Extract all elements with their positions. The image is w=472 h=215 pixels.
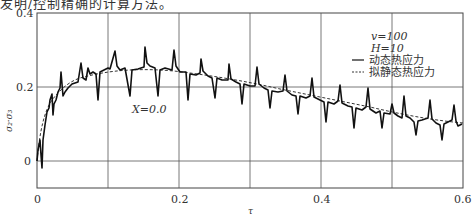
- y-tick-0: 0: [24, 155, 31, 168]
- x-tick-0.4: 0.4: [313, 193, 331, 206]
- chart: 0.4 0.2 0 σ₂·σ₃ 0 0.2 0.4 0.6 τ X=0.0 v=…: [0, 0, 472, 215]
- grid-vertical: [108, 13, 392, 188]
- x-tick-0.2: 0.2: [171, 193, 189, 206]
- x-axis-label: τ: [248, 206, 254, 215]
- x-tick-0: 0: [34, 193, 41, 206]
- annotation-x: X=0.0: [131, 103, 167, 116]
- y-tick-0.2: 0.2: [16, 81, 34, 94]
- y-axis-label: σ₂·σ₃: [4, 109, 14, 132]
- legend-item-dynamic: 动态热应力: [369, 53, 424, 67]
- legend: v=100 H=10 动态热应力 拟静态热应力: [352, 30, 435, 79]
- legend-item-quasistatic: 拟静态热应力: [369, 65, 435, 79]
- y-tick-0.4: 0.4: [16, 7, 34, 20]
- x-tick-0.6: 0.6: [454, 193, 472, 206]
